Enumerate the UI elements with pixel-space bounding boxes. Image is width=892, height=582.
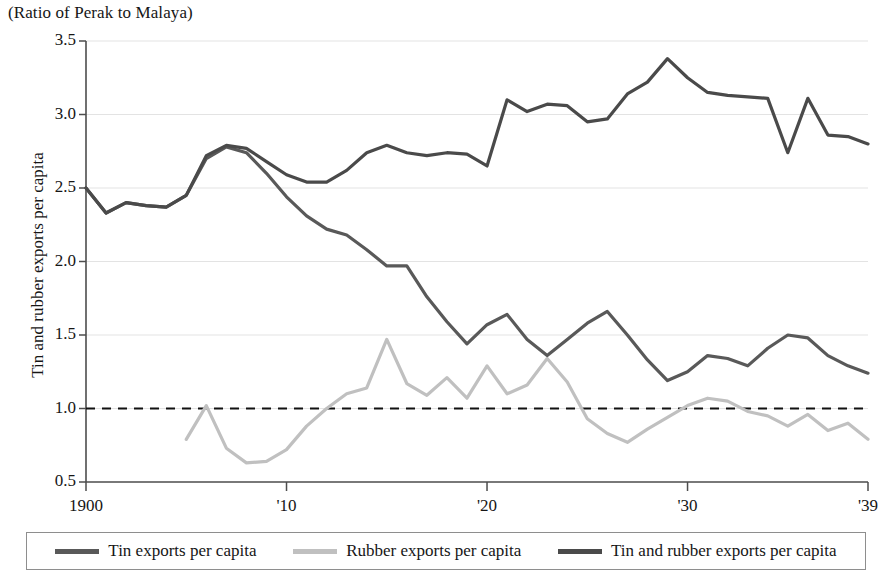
legend-item-tin[interactable]: Tin exports per capita [55, 541, 256, 561]
x-tick-label: '20 [477, 496, 497, 516]
series-line-tin-and-rubber-exports-per-capita [86, 59, 868, 213]
y-tick-label: 0.5 [28, 471, 76, 491]
legend-swatch-combined [558, 549, 602, 554]
y-tick-label: 3.5 [28, 30, 76, 50]
legend-swatch-rubber [293, 549, 337, 554]
plot-area [0, 0, 892, 582]
chart-figure: (Ratio of Perak to Malaya) Tin and rubbe… [0, 0, 892, 582]
x-tick-label: '30 [677, 496, 697, 516]
x-tick-label: '39 [858, 496, 878, 516]
legend-label-tin: Tin exports per capita [108, 541, 256, 561]
y-tick-label: 2.0 [28, 251, 76, 271]
y-tick-label: 2.5 [28, 177, 76, 197]
x-tick-label: 1900 [69, 496, 103, 516]
series-line-tin-exports-per-capita [86, 147, 868, 381]
legend-item-rubber[interactable]: Rubber exports per capita [293, 541, 521, 561]
chart-legend: Tin exports per capita Rubber exports pe… [26, 532, 866, 570]
y-tick-label: 1.0 [28, 398, 76, 418]
y-tick-label: 1.5 [28, 324, 76, 344]
legend-label-combined: Tin and rubber exports per capita [611, 541, 837, 561]
legend-swatch-tin [55, 549, 99, 554]
series-line-rubber-exports-per-capita [186, 339, 868, 462]
x-tick-label: '10 [276, 496, 296, 516]
legend-item-combined[interactable]: Tin and rubber exports per capita [558, 541, 837, 561]
y-tick-label: 3.0 [28, 104, 76, 124]
legend-label-rubber: Rubber exports per capita [346, 541, 521, 561]
